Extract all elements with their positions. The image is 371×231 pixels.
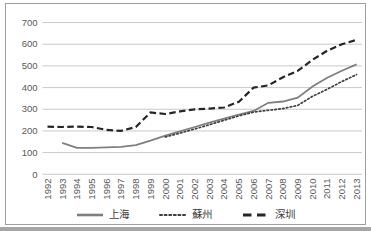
x-tick-label: 2004 — [218, 179, 229, 200]
x-tick-label: 1999 — [145, 179, 156, 200]
x-tick-label: 1993 — [57, 179, 68, 200]
y-tick-label: 0 — [32, 169, 37, 180]
x-tick-label: 2010 — [307, 179, 318, 200]
x-tick-label: 2011 — [321, 179, 332, 199]
chart-legend: 上海蘇州深圳 — [6, 207, 365, 222]
y-tick-label: 400 — [22, 82, 38, 93]
x-tick-label: 1996 — [101, 179, 112, 200]
x-tick-label: 1997 — [115, 179, 126, 200]
y-tick-label: 200 — [22, 125, 38, 136]
legend-label-shanghai: 上海 — [109, 209, 129, 220]
legend-item-suzhou: 蘇州 — [159, 209, 212, 220]
x-tick-label: 2009 — [292, 179, 303, 200]
page-edge-strip — [0, 227, 371, 231]
x-tick-label: 2005 — [233, 179, 244, 200]
chart-page: 0100200300400500600700199219931994199519… — [0, 0, 371, 231]
x-tick-label: 2012 — [336, 179, 347, 200]
x-tick-label: 1998 — [130, 179, 141, 200]
x-tick-label: 2007 — [263, 179, 274, 200]
legend-shenzhen-line-sample — [242, 212, 270, 218]
x-tick-label: 2003 — [204, 179, 215, 200]
y-tick-label: 300 — [22, 103, 38, 114]
legend-suzhou-line-sample — [159, 212, 187, 218]
x-tick-label: 1994 — [71, 179, 82, 200]
chart-frame: 0100200300400500600700199219931994199519… — [5, 3, 366, 225]
legend-label-suzhou: 蘇州 — [192, 209, 212, 220]
y-tick-label: 700 — [22, 17, 38, 28]
x-tick-label: 2006 — [248, 179, 259, 200]
line-chart: 0100200300400500600700199219931994199519… — [6, 4, 365, 224]
series-line-shanghai — [62, 64, 356, 147]
y-tick-label: 100 — [22, 147, 38, 158]
legend-item-shanghai: 上海 — [76, 209, 129, 220]
y-tick-label: 600 — [22, 38, 38, 49]
x-tick-label: 2000 — [160, 179, 171, 200]
x-tick-label: 2008 — [277, 179, 288, 200]
y-tick-label: 500 — [22, 60, 38, 71]
x-tick-label: 1995 — [86, 179, 97, 200]
x-tick-label: 2013 — [351, 179, 362, 200]
series-line-shenzhen — [48, 40, 357, 131]
x-tick-label: 1992 — [42, 179, 53, 200]
legend-label-shenzhen: 深圳 — [275, 209, 295, 220]
legend-shanghai-line-sample — [76, 212, 104, 218]
x-tick-label: 2002 — [189, 179, 200, 200]
x-tick-label: 2001 — [174, 179, 185, 200]
legend-item-shenzhen: 深圳 — [242, 209, 295, 220]
